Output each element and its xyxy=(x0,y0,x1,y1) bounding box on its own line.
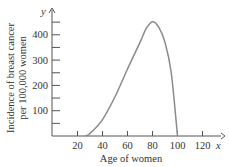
y-tick-label: 100 xyxy=(32,105,48,116)
x-axis-variable: x xyxy=(215,140,221,151)
y-tick-label: 200 xyxy=(32,80,48,91)
chart: y x 20406080100120 100200300400 Age of w… xyxy=(0,0,229,167)
y-tick-label: 400 xyxy=(32,29,48,40)
x-ticks: 20406080100120 xyxy=(72,131,210,151)
x-tick-label: 60 xyxy=(122,140,133,151)
x-axis-label: Age of women xyxy=(100,153,163,164)
y-axis-label-line1: Incidence of breast cancer xyxy=(5,23,16,133)
y-axis-label-line2: per 100,000 women xyxy=(17,35,28,119)
x-tick-label: 20 xyxy=(72,140,83,151)
y-tick-label: 300 xyxy=(32,55,48,66)
incidence-curve xyxy=(85,22,178,136)
y-ticks: 100200300400 xyxy=(32,22,60,123)
x-tick-label: 80 xyxy=(147,140,158,151)
x-axis-arrow-icon xyxy=(221,133,225,139)
x-tick-label: 100 xyxy=(170,140,186,151)
x-tick-label: 40 xyxy=(97,140,108,151)
x-tick-label: 120 xyxy=(195,140,211,151)
axes xyxy=(52,10,221,136)
y-axis-label: Incidence of breast cancer per 100,000 w… xyxy=(5,23,28,133)
y-axis-variable: y xyxy=(40,6,46,17)
